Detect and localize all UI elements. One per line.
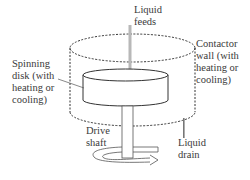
liquid-drain-pipe: [183, 118, 185, 138]
label-line: drain: [178, 149, 206, 161]
label-line: Drive: [86, 125, 110, 137]
label-line: heating or: [12, 82, 54, 94]
label-line: disk (with: [12, 70, 54, 82]
spinning-disk: [83, 69, 168, 106]
label-line: heating or: [196, 62, 239, 74]
label-line: cooling): [196, 74, 239, 86]
label-line: Spinning: [12, 58, 54, 70]
drive-shaft: [122, 106, 133, 158]
liquid-feed-pipe: [129, 25, 132, 71]
label-spinning-disk: Spinning disk (with heating or cooling): [12, 58, 54, 106]
label-contactor-wall: Contactor wall (with heating or cooling): [196, 38, 239, 86]
label-line: Liquid: [178, 137, 206, 149]
label-drive-shaft: Drive shaft: [86, 125, 110, 149]
label-line: Contactor: [196, 38, 239, 50]
label-liquid-drain: Liquid drain: [178, 137, 206, 161]
label-line: feeds: [134, 16, 162, 28]
label-line: cooling): [12, 94, 54, 106]
label-line: wall (with: [196, 50, 239, 62]
spinning-disk-reactor-diagram: Liquid feeds Spinning disk (with heating…: [0, 0, 250, 180]
label-line: Liquid: [134, 4, 162, 16]
label-line: shaft: [86, 137, 110, 149]
label-liquid-feeds: Liquid feeds: [134, 4, 162, 28]
disk-label-pointer: [58, 79, 84, 88]
